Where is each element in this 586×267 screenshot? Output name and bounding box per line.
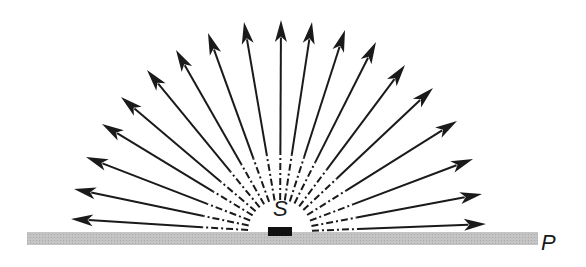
source-block bbox=[268, 227, 292, 236]
ray-arrow bbox=[71, 214, 248, 230]
plate-label: P bbox=[541, 232, 556, 254]
source-label: S bbox=[273, 198, 288, 220]
emission-diagram bbox=[0, 0, 586, 267]
arrowhead-icon bbox=[102, 124, 124, 141]
ray-arrow bbox=[312, 219, 486, 231]
arrowhead-icon bbox=[361, 42, 376, 64]
ray-arrow bbox=[275, 20, 287, 200]
arrowhead-icon bbox=[176, 50, 192, 72]
arrowhead-icon bbox=[387, 65, 405, 86]
ray-arrow bbox=[299, 65, 405, 206]
ray-arrow bbox=[74, 188, 249, 226]
arrowhead-icon bbox=[435, 121, 457, 138]
